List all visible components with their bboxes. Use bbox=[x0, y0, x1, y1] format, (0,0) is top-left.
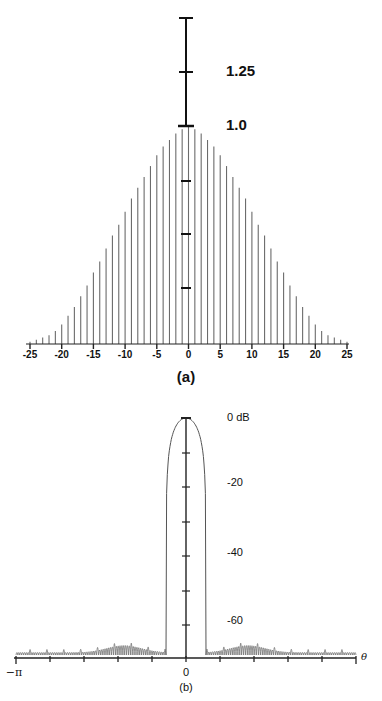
y-label-minus40: -40 bbox=[227, 546, 243, 558]
y-label-minus60: -60 bbox=[227, 614, 243, 626]
x-ticks-b bbox=[16, 656, 356, 664]
caption-b: (b) bbox=[179, 681, 192, 693]
spectrum-db-chart bbox=[0, 0, 382, 701]
x-label-zero: 0 bbox=[183, 666, 189, 678]
y-label-0db: 0 dB bbox=[227, 411, 250, 423]
x-label-neg-pi: −π bbox=[6, 666, 22, 679]
x-axis-theta-label: θ bbox=[361, 651, 367, 662]
y-label-minus20: -20 bbox=[227, 476, 243, 488]
